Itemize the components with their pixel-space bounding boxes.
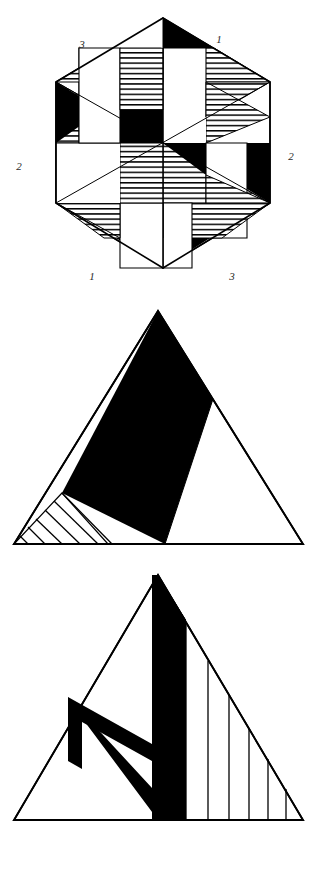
figure-triangle-solid-wedge xyxy=(0,292,322,554)
triangle-vee-black-stem xyxy=(152,575,186,820)
hex-hatch-tl-inner xyxy=(120,48,163,110)
hex-white-bar-top-left xyxy=(79,48,120,143)
figure-triangle-vee-wedge xyxy=(0,556,322,836)
hex-label-left: 2 xyxy=(16,160,22,172)
hex-label-right: 2 xyxy=(288,150,294,162)
hex-label-bottom-right: 3 xyxy=(228,270,235,282)
hexagon-svg: 3 1 2 2 1 3 xyxy=(0,0,322,290)
hex-white-bar-bottom-left xyxy=(120,203,163,268)
hex-label-top-left: 3 xyxy=(78,38,85,50)
triangle-solid-svg xyxy=(0,292,322,554)
figure-plate: 3 1 2 2 1 3 xyxy=(0,0,322,870)
figure-hexagon-pinwheel: 3 1 2 2 1 3 xyxy=(0,0,322,290)
hex-hatch-left-lower xyxy=(120,143,163,203)
hex-label-top-right: 1 xyxy=(216,33,222,45)
hex-label-bottom-left: 1 xyxy=(89,270,95,282)
triangle-vee-svg xyxy=(0,556,322,836)
hex-white-bar-bottom-right xyxy=(163,203,192,268)
